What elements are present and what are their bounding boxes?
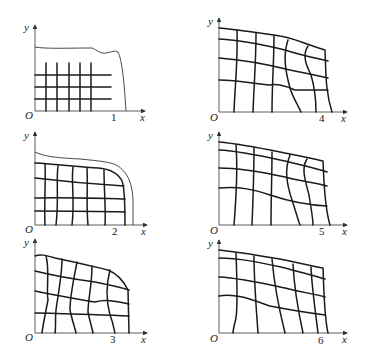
- panel-4: y O x 4: [207, 15, 347, 124]
- origin-label: O: [210, 224, 218, 236]
- y-axis-label: y: [23, 236, 29, 248]
- y-axis-label: y: [207, 237, 213, 249]
- panel-number: 1: [111, 111, 117, 123]
- grid: [35, 63, 111, 111]
- x-axis-label: x: [140, 333, 146, 345]
- grid: [219, 28, 332, 112]
- panel-3: y O x 3: [23, 236, 147, 345]
- x-axis-label: x: [341, 225, 347, 237]
- x-axis-label: x: [139, 111, 145, 123]
- grid: [35, 255, 129, 333]
- panel-5: y O x 5: [207, 129, 347, 237]
- origin-label: O: [25, 109, 33, 121]
- origin-label: O: [25, 223, 33, 235]
- x-axis-label: x: [140, 225, 146, 237]
- x-axis-label: x: [340, 112, 346, 124]
- panel-1: y O x 1: [23, 21, 145, 123]
- boundary-curve: [35, 152, 133, 225]
- origin-label: O: [210, 111, 218, 123]
- deformation-diagram: y O x 1 y O x 2: [0, 0, 366, 363]
- x-axis-label: x: [341, 333, 347, 345]
- panel-number: 3: [110, 333, 116, 345]
- grid: [35, 163, 125, 225]
- panel-2: y O x 2: [23, 129, 147, 237]
- origin-label: O: [25, 331, 33, 343]
- panel-6: y O x 6: [207, 237, 347, 346]
- y-axis-label: y: [207, 15, 213, 27]
- panel-number: 5: [319, 225, 325, 237]
- y-axis-label: y: [23, 21, 29, 33]
- panel-number: 6: [318, 334, 324, 346]
- panel-number: 4: [319, 112, 325, 124]
- y-axis-label: y: [207, 129, 213, 141]
- y-axis-label: y: [23, 129, 29, 141]
- origin-label: O: [210, 332, 218, 344]
- grid: [219, 142, 330, 225]
- grid: [219, 250, 328, 333]
- panel-number: 2: [112, 225, 118, 237]
